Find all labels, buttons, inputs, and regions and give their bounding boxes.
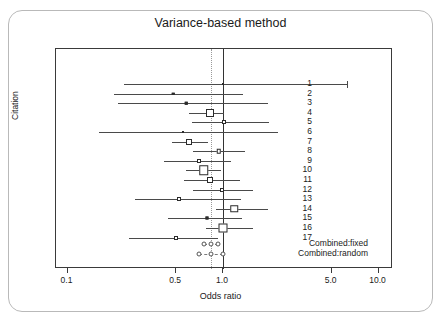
effect-size-marker xyxy=(172,92,175,95)
effect-size-marker xyxy=(174,236,178,240)
combined-bound-marker xyxy=(221,252,226,257)
effect-size-marker xyxy=(222,83,224,85)
x-axis-tick-label: 1.0 xyxy=(202,275,242,285)
effect-size-marker xyxy=(219,224,228,233)
x-axis-tick xyxy=(331,268,332,273)
study-label: 12 xyxy=(286,184,312,194)
interval-cap-icon xyxy=(347,81,348,88)
confidence-interval-line xyxy=(192,122,269,123)
confidence-interval-line xyxy=(118,103,268,104)
confidence-interval-line xyxy=(124,84,348,85)
effect-size-marker xyxy=(186,139,192,145)
study-label: 4 xyxy=(286,107,312,117)
x-axis-tick-label: 0.1 xyxy=(47,275,87,285)
study-label: 8 xyxy=(286,145,312,155)
confidence-interval-line xyxy=(114,94,243,95)
forest-plot-panel xyxy=(55,48,392,268)
null-effect-line xyxy=(223,49,224,269)
effect-size-marker xyxy=(207,177,213,183)
study-label: 16 xyxy=(286,222,312,232)
confidence-interval-line xyxy=(206,228,252,229)
effect-size-marker xyxy=(177,197,181,201)
combined-label: Combined:random xyxy=(258,248,368,258)
combined-bound-marker xyxy=(196,252,201,257)
study-label: 6 xyxy=(286,126,312,136)
study-label: 14 xyxy=(286,203,312,213)
x-axis-tick-label: 0.5 xyxy=(155,275,195,285)
confidence-interval-line xyxy=(99,132,278,133)
effect-size-marker xyxy=(220,188,224,192)
chart-title: Variance-based method xyxy=(0,16,441,30)
study-label: 9 xyxy=(286,155,312,165)
combined-estimate-marker xyxy=(209,252,214,257)
effect-size-marker xyxy=(197,159,201,163)
study-label: 3 xyxy=(286,97,312,107)
study-label: 5 xyxy=(286,116,312,126)
effect-size-marker xyxy=(182,131,184,133)
x-axis-tick xyxy=(175,268,176,273)
effect-size-marker xyxy=(217,149,222,154)
effect-size-marker xyxy=(206,217,209,220)
study-label: 13 xyxy=(286,193,312,203)
effect-size-marker xyxy=(206,109,214,117)
study-label: 11 xyxy=(286,174,312,184)
confidence-interval-line xyxy=(135,199,241,200)
study-label: 10 xyxy=(286,164,312,174)
x-axis-tick-label: 10.0 xyxy=(358,275,398,285)
x-axis-tick xyxy=(67,268,68,273)
combined-estimate-marker xyxy=(209,242,214,247)
x-axis-tick xyxy=(378,268,379,273)
x-axis-tick-label: 5.0 xyxy=(311,275,351,285)
effect-size-marker xyxy=(185,102,188,105)
effect-size-marker xyxy=(230,205,238,213)
study-label: 15 xyxy=(286,212,312,222)
x-axis-label: Odds ratio xyxy=(0,291,441,301)
effect-size-marker xyxy=(222,120,226,124)
y-axis-label: Citation xyxy=(10,91,20,120)
combined-label: Combined:fixed xyxy=(258,238,368,248)
confidence-interval-line xyxy=(216,209,268,210)
combined-bound-marker xyxy=(216,242,221,247)
combined-bound-marker xyxy=(202,242,207,247)
effect-size-marker xyxy=(199,166,209,176)
study-label: 7 xyxy=(286,136,312,146)
study-label: 2 xyxy=(286,88,312,98)
x-axis-tick xyxy=(222,268,223,273)
pooled-effect-line xyxy=(211,49,212,269)
study-label: 1 xyxy=(286,78,312,88)
